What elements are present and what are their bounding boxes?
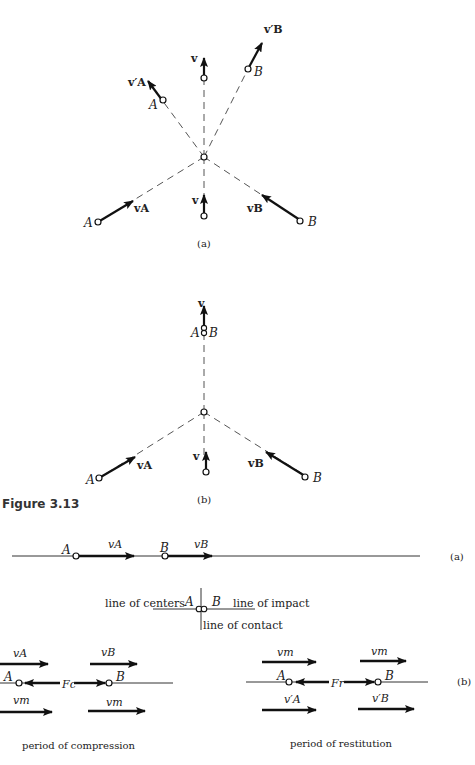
collision-point bbox=[201, 409, 207, 415]
vA-label: vA bbox=[13, 647, 27, 660]
point-B-merged bbox=[201, 330, 206, 335]
figure-3-13: v A v′A B v′B v A vA B vB (a) bbox=[0, 0, 475, 765]
vA-prime-label: v′A bbox=[284, 693, 301, 706]
B-merged-label: B bbox=[208, 326, 218, 340]
point-A bbox=[16, 680, 22, 686]
point-v-bottom bbox=[201, 213, 207, 219]
B-label: B bbox=[312, 471, 322, 485]
A-label: A bbox=[276, 669, 286, 683]
point-A bbox=[96, 475, 102, 481]
point-A bbox=[95, 219, 101, 225]
point-A-merged bbox=[201, 325, 206, 330]
vB-arrow bbox=[262, 195, 300, 220]
compression-title: period of compression bbox=[22, 740, 135, 751]
diagram-a: v A v′A B v′B v A vA B vB (a) bbox=[83, 23, 317, 249]
vB-label: vB bbox=[246, 202, 263, 215]
vB-label: vB bbox=[247, 457, 264, 470]
line-of-impact-label: line of impact bbox=[233, 597, 310, 610]
A-merged-label: A bbox=[190, 326, 200, 340]
Fc-label: Fc bbox=[61, 678, 76, 691]
vA-prime-label: v′A bbox=[127, 76, 146, 89]
point-B-prime bbox=[245, 66, 251, 72]
vA-arrow bbox=[99, 457, 135, 478]
vB-prime-label: v′B bbox=[372, 692, 389, 705]
A-prime-label: A bbox=[148, 98, 158, 112]
vB-label: vB bbox=[194, 538, 208, 551]
vA-label: vA bbox=[133, 202, 149, 215]
vm-right-label: vm bbox=[371, 645, 388, 658]
point-v bbox=[201, 75, 207, 81]
sublabel-b: (b) bbox=[457, 676, 471, 687]
A-label: A bbox=[85, 473, 95, 487]
B-label: B bbox=[384, 669, 394, 683]
diagram-b: v A B v A vA B vB (b) bbox=[85, 297, 322, 505]
Fr-label: Fr bbox=[330, 677, 345, 690]
vB-prime-label: v′B bbox=[263, 23, 283, 36]
A-label: A bbox=[61, 543, 71, 557]
contact-schematic: line of centers A B line of impact line … bbox=[105, 588, 310, 632]
figure-caption: Figure 3.13 bbox=[2, 497, 79, 511]
A-label: A bbox=[184, 595, 194, 609]
sublabel-a: (a) bbox=[197, 238, 211, 249]
B-label: B bbox=[159, 541, 169, 555]
A-label: A bbox=[83, 216, 93, 230]
point-A-prime bbox=[160, 97, 166, 103]
restitution-title: period of restitution bbox=[290, 738, 393, 749]
vm-right-label: vm bbox=[106, 696, 123, 709]
vA-label: vA bbox=[108, 538, 122, 551]
bottom-diagram-a: A B vA vB (a) bbox=[12, 538, 464, 562]
B-label: B bbox=[115, 670, 125, 684]
point-v-bottom bbox=[203, 469, 209, 475]
point-B bbox=[297, 218, 303, 224]
vA-arrow bbox=[98, 201, 133, 222]
line-of-contact-label: line of contact bbox=[203, 619, 283, 632]
vB-label: vB bbox=[101, 646, 115, 659]
sublabel-b: (b) bbox=[197, 494, 211, 505]
point-A bbox=[73, 553, 79, 559]
compression-diagram: vA vB A B Fc vm vm period of compression bbox=[0, 646, 173, 751]
B-label: B bbox=[211, 595, 221, 609]
vm-left-label: vm bbox=[13, 694, 30, 707]
point-B bbox=[201, 606, 207, 612]
vm-left-label: vm bbox=[277, 646, 294, 659]
A-label: A bbox=[3, 670, 13, 684]
point-B bbox=[375, 679, 381, 685]
dashed-line-a-prime bbox=[162, 100, 204, 157]
point-A bbox=[286, 679, 292, 685]
point-B bbox=[302, 474, 308, 480]
B-label: B bbox=[307, 215, 317, 229]
sublabel-a: (a) bbox=[450, 551, 464, 562]
v-bottom-label: v bbox=[192, 450, 200, 463]
restitution-diagram: vm vm A B Fr v′A v′B period of restituti… bbox=[246, 645, 471, 749]
collision-point bbox=[201, 154, 207, 160]
B-prime-label: B bbox=[253, 65, 263, 79]
dashed-line-b-prime bbox=[204, 69, 248, 157]
line-of-centers-label: line of centers bbox=[105, 597, 185, 610]
point-B bbox=[106, 680, 112, 686]
vB-arrow bbox=[266, 452, 305, 476]
v-bottom-label: v bbox=[191, 194, 199, 207]
vA-label: vA bbox=[136, 459, 152, 472]
v-label: v bbox=[197, 297, 205, 310]
v-label: v bbox=[190, 52, 198, 65]
